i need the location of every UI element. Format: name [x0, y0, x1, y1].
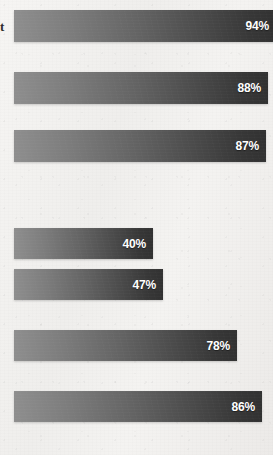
- bar-track: 86%: [14, 391, 262, 422]
- bar-row: 47%: [14, 269, 163, 300]
- bar-value-label: 86%: [232, 400, 255, 414]
- bar-row: 87%: [14, 130, 266, 162]
- bar-row: 88%: [14, 72, 268, 104]
- bar-track: 47%: [14, 269, 163, 300]
- bar-row: 94%: [14, 10, 273, 42]
- bar-value-label: 87%: [236, 139, 259, 153]
- bar-value-label: 47%: [133, 278, 156, 292]
- bar-track: 40%: [14, 228, 153, 259]
- bar-row: 78%: [14, 330, 237, 361]
- bar-chart: t 94% 88% 87% 40% 47% 78% 86%: [0, 0, 273, 455]
- margin-clipped-glyph: t: [0, 20, 5, 33]
- bar-track: 78%: [14, 330, 237, 361]
- bar-track: 94%: [14, 10, 273, 42]
- bar-track: 87%: [14, 130, 266, 162]
- bar-value-label: 88%: [238, 81, 261, 95]
- bar-value-label: 40%: [123, 237, 146, 251]
- bar-track: 88%: [14, 72, 268, 104]
- bar-value-label: 94%: [246, 19, 269, 33]
- bar-row: 40%: [14, 228, 153, 259]
- bar-row: 86%: [14, 391, 262, 422]
- bar-value-label: 78%: [207, 339, 230, 353]
